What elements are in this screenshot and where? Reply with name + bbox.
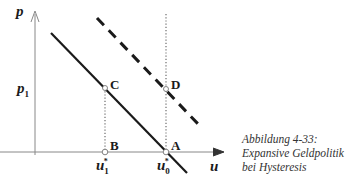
caption-line-2: Expansive Geldpolitik <box>242 146 344 160</box>
u0-subscript: 0 <box>165 166 170 176</box>
point-c-marker <box>103 86 108 91</box>
y-axis-label: p <box>16 3 24 20</box>
point-a-label: A <box>171 138 180 154</box>
x-axis-label: u <box>210 158 218 175</box>
point-d-label: D <box>171 77 180 93</box>
point-a-marker <box>163 149 169 155</box>
u1-superscript: * <box>104 157 108 166</box>
point-b-marker <box>102 149 108 155</box>
u1-star-label: u1* <box>96 157 108 176</box>
p1-base: p <box>17 80 25 96</box>
u0-star-label: u0* <box>157 157 169 176</box>
dashed-curve <box>97 18 200 126</box>
u0-superscript: * <box>165 157 169 166</box>
p1-tick-label: p1 <box>17 80 29 99</box>
figure-caption: Abbildung 4-33: Expansive Geldpolitik be… <box>242 132 344 174</box>
p1-subscript: 1 <box>25 89 30 99</box>
point-b-label: B <box>110 138 119 154</box>
point-d-marker <box>164 87 169 92</box>
x-axis-arrow-icon <box>213 148 224 156</box>
caption-line-3: bei Hysteresis <box>242 160 344 174</box>
point-c-label: C <box>110 77 119 93</box>
u1-subscript: 1 <box>104 166 109 176</box>
caption-line-1: Abbildung 4-33: <box>242 132 344 146</box>
